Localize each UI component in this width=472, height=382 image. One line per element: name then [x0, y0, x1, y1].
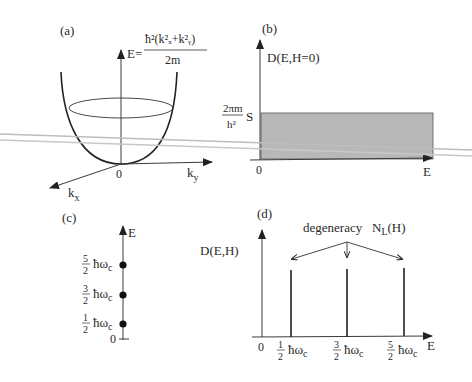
level-numerator: 2πm — [223, 102, 243, 114]
kx-axis — [50, 164, 121, 188]
origin-label-c: 0 — [110, 332, 116, 346]
panel-d-label: (d) — [257, 206, 272, 221]
svg-text:ħωc: ħωc — [288, 342, 308, 359]
energy-label-b: E — [423, 164, 431, 179]
formula-numerator: ħ²(k²ₓ+k²ᵧ) — [145, 32, 195, 46]
panel-b: (b) D(E,H=0) 2πm h² S 0 E — [222, 21, 433, 179]
degeneracy-symbol: NL(H) — [372, 220, 406, 237]
origin-label-a: 0 — [116, 167, 122, 181]
energy-label-c: E — [128, 225, 136, 240]
level-dot — [119, 261, 126, 268]
level-denominator: h² — [227, 118, 237, 130]
ky-label: ky — [187, 165, 199, 183]
svg-text:ħωc: ħωc — [398, 342, 418, 359]
landau-level-1-2: 1 2 ħωc — [82, 312, 127, 335]
origin-label-d: 0 — [258, 340, 264, 354]
svg-text:2: 2 — [83, 295, 88, 306]
energy-axis-d — [252, 336, 432, 337]
landau-level-3-2: 3 2 ħωc — [82, 283, 127, 306]
svg-text:3: 3 — [334, 339, 339, 350]
svg-text:5: 5 — [388, 339, 393, 350]
svg-text:2: 2 — [388, 351, 393, 362]
level-dot — [119, 320, 126, 327]
svg-text:2: 2 — [83, 324, 88, 335]
landau-level-5-2: 5 2 ħωc — [82, 253, 127, 276]
tick-1-2: 1 2 ħωc — [277, 339, 308, 362]
formula-denominator: 2m — [165, 53, 181, 67]
dos-label: D(E,H=0) — [267, 50, 319, 65]
degeneracy-arrow-right — [347, 242, 402, 259]
panel-a: (a) E= ħ²(k²ₓ+k²ᵧ) 2m 0 ky kx — [50, 23, 212, 203]
svg-text:5: 5 — [83, 253, 88, 264]
kx-label: kx — [68, 185, 80, 203]
area-symbol: S — [246, 109, 253, 124]
svg-text:ħωc: ħωc — [93, 315, 113, 332]
panel-c: (c) E 0 5 2 ħωc 3 2 ħωc 1 2 ħωc — [62, 210, 136, 346]
energy-label-d: E — [427, 338, 435, 353]
svg-text:1: 1 — [278, 339, 283, 350]
svg-text:ħωc: ħωc — [344, 342, 364, 359]
svg-text:1: 1 — [83, 312, 88, 323]
svg-text:3: 3 — [83, 283, 88, 294]
panel-b-label: (b) — [262, 21, 277, 36]
level-dot — [119, 291, 126, 298]
svg-text:2: 2 — [278, 351, 283, 362]
panel-c-label: (c) — [62, 210, 76, 225]
panel-a-label: (a) — [60, 23, 74, 38]
tick-3-2: 3 2 ħωc — [333, 339, 364, 362]
svg-text:ħωc: ħωc — [93, 286, 113, 303]
svg-text:ħωc: ħωc — [93, 256, 113, 273]
svg-text:2: 2 — [83, 265, 88, 276]
origin-label-b: 0 — [256, 163, 262, 177]
dos-label-d: D(E,H) — [200, 243, 239, 258]
degeneracy-arrow-left — [292, 242, 347, 259]
degeneracy-label: degeneracy — [303, 220, 363, 235]
tick-5-2: 5 2 ħωc — [387, 339, 418, 362]
panel-d: (d) D(E,H) degeneracy NL(H) 0 E 1 2 ħωc … — [200, 206, 435, 362]
formula-lhs: E= — [127, 46, 142, 61]
svg-text:2: 2 — [334, 351, 339, 362]
figure: (a) E= ħ²(k²ₓ+k²ᵧ) 2m 0 ky kx (b) D(E,H=… — [0, 0, 472, 382]
